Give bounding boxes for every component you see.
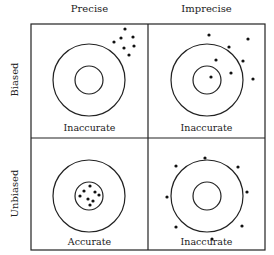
shot-dot [119,36,122,39]
shot-dot [246,37,249,40]
shot-dot [88,203,91,206]
shot-dot [91,199,94,202]
target-unbiased-precise [53,160,125,232]
shot-dot [241,59,244,62]
outer-ring [53,160,125,232]
shot-dot [240,224,243,227]
targets [53,27,255,240]
shot-dot [214,58,217,61]
shot-dot [123,27,126,30]
shot-dot [229,71,232,74]
shot-dot [88,184,91,187]
inner-ring [75,66,103,94]
outer-ring [53,44,125,116]
target-biased-precise [53,27,136,116]
cell-label-unbiased-precise: Accurate [31,236,148,247]
shot-dot [127,53,130,56]
shot-dot [82,189,85,192]
grid-lines [31,24,265,250]
shot-dot [97,193,100,196]
shot-dot [131,35,134,38]
inner-ring [193,182,221,210]
shot-dot [227,45,230,48]
shot-dot [236,165,239,168]
shot-dot [86,197,89,200]
shot-dot [209,75,212,78]
shot-dot [174,225,177,228]
shot-dot [165,195,168,198]
target-unbiased-imprecise [165,156,248,240]
shot-dot [207,33,210,36]
shot-dot [78,194,81,197]
cell-label-biased-precise: Inaccurate [31,122,148,133]
shot-dot [245,190,248,193]
shot-dot [174,164,177,167]
shot-dot [251,77,254,80]
outer-ring [171,44,243,116]
shot-dot [122,46,125,49]
inner-ring [193,66,221,94]
shot-dot [203,156,206,159]
cell-label-unbiased-imprecise: Inaccurate [148,236,265,247]
shot-dot [93,190,96,193]
cell-label-biased-imprecise: Inaccurate [148,122,265,133]
shot-dot [112,40,115,43]
target-biased-imprecise [171,33,255,116]
shot-dot [132,44,135,47]
outer-ring [171,160,243,232]
